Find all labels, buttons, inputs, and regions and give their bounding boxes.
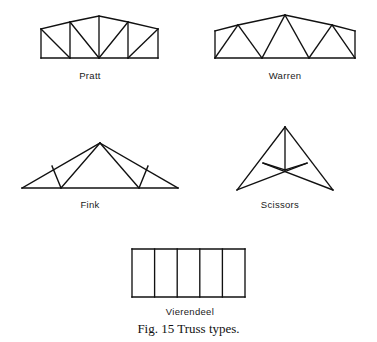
truss-diagram-svg [0,0,377,342]
fink-strut-left [52,166,61,188]
pratt-diagonal-4 [128,29,158,58]
truss-label-pratt: Pratt [45,70,135,81]
pratt-diagonal-3 [99,22,128,58]
fink-web-right-inner [100,143,139,188]
figure-caption: Fig. 15 Truss types. [0,321,377,337]
fink-web-left-inner [61,143,100,188]
truss-label-scissors: Scissors [235,199,325,210]
truss-label-vierendeel: Vierendeel [140,306,240,317]
scissors-strut-right [285,163,307,170]
warren-diagonal-5 [309,25,332,58]
truss-scissors [237,127,333,190]
figure-page: Pratt Warren Fink Scissors Vierendeel Fi… [0,0,377,342]
warren-diagonal-3 [262,15,285,58]
scissors-strut-left [263,163,285,170]
truss-label-fink: Fink [55,199,125,210]
pratt-diagonal-2 [70,22,99,58]
truss-label-warren: Warren [240,70,330,81]
pratt-diagonal-1 [41,29,70,58]
truss-vierendeel [132,249,245,297]
warren-diagonal-4 [285,15,309,58]
truss-fink [22,143,178,188]
fink-rafter-left [22,143,100,188]
fink-strut-right [139,166,148,188]
fink-rafter-right [100,143,178,188]
truss-warren [215,15,355,58]
truss-pratt [41,16,158,58]
warren-diagonal-2 [238,25,262,58]
